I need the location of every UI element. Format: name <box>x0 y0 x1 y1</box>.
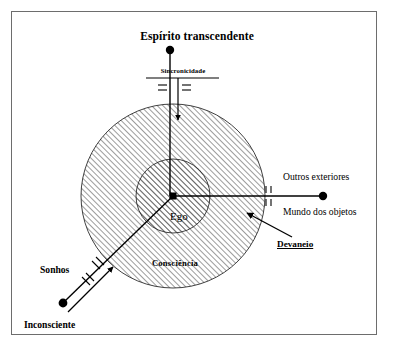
node-espirito-transcendente <box>166 46 174 54</box>
label-devaneio: Devaneio <box>277 240 313 249</box>
label-ego: Ego <box>170 211 188 222</box>
node-ego-center <box>170 193 177 200</box>
barrier-slash-upper-b <box>96 257 104 265</box>
label-sincronicidade: Sincronicidade <box>161 68 206 75</box>
node-inconsciente <box>59 299 68 308</box>
barrier-slash-upper-a <box>92 261 100 269</box>
label-mundo-dos-objetos: Mundo dos objetos <box>283 207 357 217</box>
diagram-page: Espírito transcendente Sincronicidade Eg… <box>0 0 394 349</box>
label-inconsciente: Inconsciente <box>24 320 75 330</box>
label-consciencia: Consciência <box>152 259 198 268</box>
sonhos-arrow <box>68 267 113 312</box>
label-sonhos: Sonhos <box>40 265 69 275</box>
label-outros-exteriores: Outros exteriores <box>283 172 349 182</box>
node-mundo-dos-objetos <box>319 192 327 200</box>
label-espirito-transcendente: Espírito transcendente <box>140 31 254 43</box>
